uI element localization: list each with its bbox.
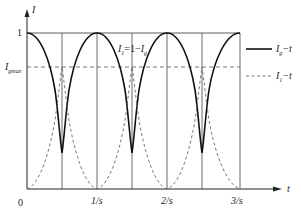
annot-subg: g (144, 50, 147, 56)
x-tick-2s: 2/s (161, 196, 173, 206)
annotation-i1-formula: I1=1−Ig (118, 44, 147, 56)
vertical-gridlines (62, 33, 240, 189)
legend-solid-label: Ig−t (276, 44, 292, 56)
legend-dashed-label: I1−t (276, 71, 292, 83)
annot-eq: =1− (124, 43, 140, 54)
chart-canvas (0, 0, 301, 212)
x-tick-zero: 0 (18, 198, 23, 208)
y-axis-label: I (32, 5, 35, 15)
legend-solid-t: −t (282, 43, 292, 54)
chart-stage: I t 1 Igmax 0 1/s 2/s 3/s I1=1−Ig Ig−t I… (0, 0, 301, 212)
igmax-sub: gmax (8, 68, 21, 74)
legend-dash-t: −t (282, 70, 292, 81)
x-axis-label: t (287, 184, 290, 194)
y-tick-one: 1 (17, 28, 22, 38)
y-axis-arrow-icon (25, 9, 30, 17)
x-axis-arrow-icon (273, 187, 282, 192)
x-tick-1s: 1/s (91, 196, 103, 206)
y-tick-igmax: Igmax (5, 62, 21, 74)
x-tick-3s: 3/s (231, 196, 243, 206)
